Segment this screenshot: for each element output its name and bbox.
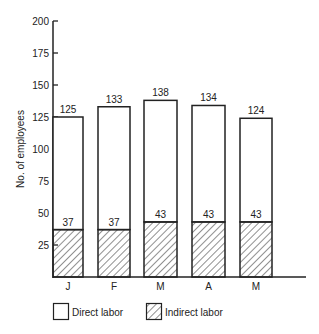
legend-label-indirect: Indirect labor	[165, 307, 223, 318]
bar-group: 13843M	[144, 87, 177, 292]
y-axis-label: No. of employees	[15, 110, 26, 188]
bar-indirect-label: 43	[250, 209, 262, 220]
bar-direct-labor	[192, 105, 225, 221]
y-tick-label: 25	[38, 240, 50, 251]
bar-indirect-label: 43	[203, 209, 215, 220]
x-tick-label: A	[205, 281, 212, 292]
legend-swatch-direct	[54, 304, 69, 320]
y-tick-label: 75	[38, 176, 50, 187]
bar-indirect-labor	[144, 222, 177, 277]
x-tick-label: M	[252, 281, 260, 292]
bar-group: 13443A	[192, 92, 225, 292]
legend-label-direct: Direct labor	[72, 307, 124, 318]
legend-swatch-indirect	[147, 304, 162, 320]
bar-total-label: 134	[200, 92, 217, 103]
bar-indirect-label: 43	[155, 209, 167, 220]
stacked-bar-chart: 255075100125150175200No. of employees 12…	[0, 0, 319, 334]
bar-indirect-label: 37	[62, 217, 74, 228]
bar-indirect-labor	[192, 222, 225, 277]
y-tick-label: 150	[32, 80, 49, 91]
y-tick-label: 175	[32, 48, 49, 59]
bar-direct-labor	[240, 118, 272, 222]
y-tick-label: 50	[38, 208, 50, 219]
bar-direct-labor	[144, 100, 177, 222]
y-tick-label: 125	[32, 112, 49, 123]
bar-indirect-labor	[98, 230, 130, 277]
bar-indirect-labor	[240, 222, 272, 277]
bar-total-label: 125	[60, 104, 77, 115]
bar-total-label: 124	[248, 105, 265, 116]
bar-indirect-labor	[53, 230, 83, 277]
y-tick-label: 200	[32, 16, 49, 27]
bar-direct-labor	[98, 107, 130, 230]
y-tick-label: 100	[32, 144, 49, 155]
x-tick-label: M	[156, 281, 164, 292]
legend: Direct laborIndirect labor	[54, 304, 224, 320]
bar-direct-labor	[53, 117, 83, 230]
x-tick-label: F	[111, 281, 117, 292]
bar-indirect-label: 37	[108, 217, 120, 228]
bar-group: 13337F	[98, 94, 130, 292]
bar-total-label: 138	[152, 87, 169, 98]
x-tick-label: J	[66, 281, 71, 292]
bar-group: 12537J	[53, 104, 83, 292]
bar-total-label: 133	[106, 94, 123, 105]
bars: 12537J13337F13843M13443A12443M	[53, 87, 272, 292]
bar-group: 12443M	[240, 105, 272, 292]
